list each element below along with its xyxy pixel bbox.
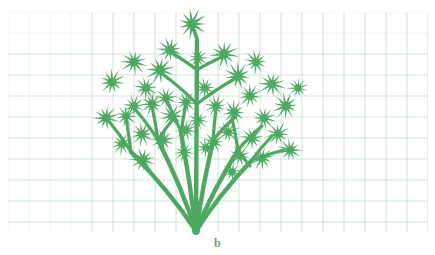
plant-illustration xyxy=(0,0,435,255)
star-floret xyxy=(93,106,120,130)
star-floret xyxy=(139,91,162,117)
botanical-figure: b xyxy=(0,0,435,255)
star-floret xyxy=(273,92,297,121)
figure-caption: b xyxy=(0,230,435,255)
star-floret xyxy=(258,73,286,97)
star-floret xyxy=(179,8,206,40)
star-floret xyxy=(287,77,309,96)
star-floret xyxy=(119,51,148,76)
star-floret xyxy=(240,83,262,108)
plant-svg xyxy=(0,0,435,255)
star-floret xyxy=(225,60,250,89)
floret-group xyxy=(93,8,309,181)
star-floret xyxy=(154,86,178,108)
star-floret xyxy=(253,108,277,130)
star-floret xyxy=(209,42,240,69)
caption-label-b: b xyxy=(214,237,221,249)
star-floret xyxy=(101,68,125,94)
